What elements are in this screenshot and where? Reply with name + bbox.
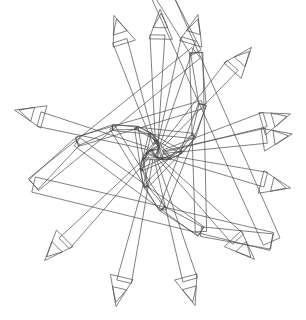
triangle-spiral-figure: Recursive Triangle Spiral [0,0,306,320]
